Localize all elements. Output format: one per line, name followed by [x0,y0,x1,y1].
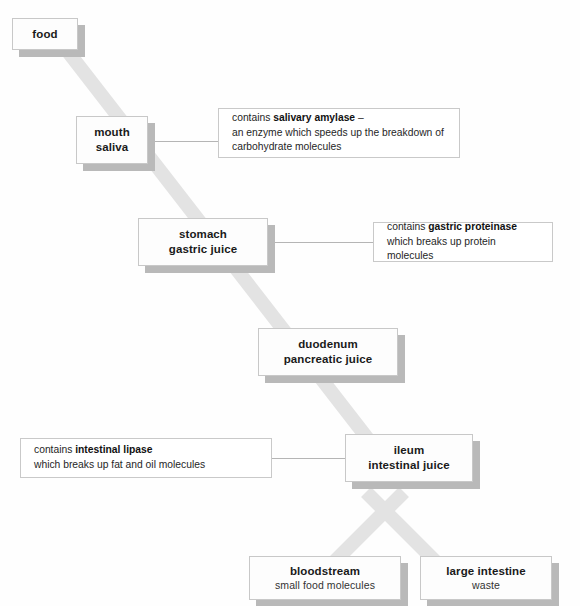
box-face: stomach gastric juice [138,218,268,266]
note-line: which breaks up protein molecules [387,235,541,264]
fork-to-bloodstream [330,492,404,566]
stage-label-primary: large intestine [446,564,525,579]
box-face: bloodstream small food molecules [249,556,401,600]
note-face: contains gastric proteinase which breaks… [373,222,553,262]
stage-box-stomach[interactable]: stomach gastric juice [138,218,268,266]
stage-label-secondary: intestinal juice [368,458,449,473]
stage-box-large-intestine[interactable]: large intestine waste [420,556,552,600]
stage-label-secondary: gastric juice [169,242,237,257]
note-line: which breaks up fat and oil molecules [34,458,260,473]
connector-stomach-to-proteinase-note [268,242,373,243]
note-box-salivary-amylase[interactable]: contains salivary amylase – an enzyme wh… [218,108,460,158]
connector-mouth-to-amylase-note [148,141,218,142]
stage-box-ileum[interactable]: ileum intestinal juice [345,434,473,482]
box-face: mouth saliva [76,116,148,164]
box-face: large intestine waste [420,556,552,600]
stage-label-primary: food [32,27,57,42]
stage-label-primary: duodenum [298,337,358,352]
note-line: contains gastric proteinase [387,220,541,235]
box-face: food [12,18,78,50]
stage-label-secondary: saliva [96,140,129,155]
note-line: an enzyme which speeds up the breakdown … [232,126,448,141]
stage-label-primary: stomach [179,227,227,242]
note-face: contains salivary amylase – an enzyme wh… [218,108,460,158]
stage-label-primary: ileum [394,443,425,458]
stage-box-bloodstream[interactable]: bloodstream small food molecules [249,556,401,600]
note-line: carbohydrate molecules [232,140,448,155]
box-face: ileum intestinal juice [345,434,473,482]
box-face: duodenum pancreatic juice [258,328,398,376]
connector-lipase-note-to-ileum [272,458,345,459]
stage-box-mouth[interactable]: mouth saliva [76,116,148,164]
note-face: contains intestinal lipase which breaks … [20,438,272,478]
flow-path-band [0,0,580,606]
note-line: contains salivary amylase – [232,111,448,126]
note-line: contains intestinal lipase [34,443,260,458]
fork-to-large-intestine [366,492,440,566]
stage-box-duodenum[interactable]: duodenum pancreatic juice [258,328,398,376]
stage-label-primary: mouth [94,125,130,140]
stage-label-secondary: small food molecules [275,579,375,592]
note-box-intestinal-lipase[interactable]: contains intestinal lipase which breaks … [20,438,272,478]
stage-label-primary: bloodstream [290,564,360,579]
stage-label-secondary: waste [472,579,500,592]
digestion-diagram: food mouth saliva stomach gastric juice … [0,0,580,606]
stage-box-food[interactable]: food [12,18,78,50]
stage-label-secondary: pancreatic juice [284,352,373,367]
note-box-gastric-proteinase[interactable]: contains gastric proteinase which breaks… [373,222,553,262]
